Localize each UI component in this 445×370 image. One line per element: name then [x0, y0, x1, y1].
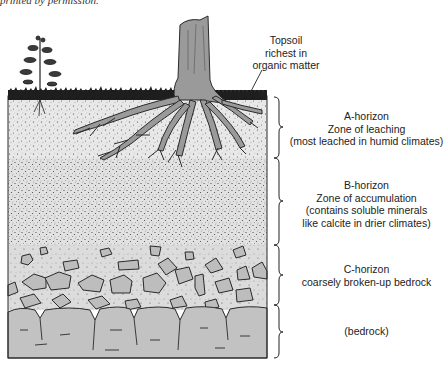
horizon-braces [274, 97, 283, 358]
b-horizon-note: (contains soluble minerals [288, 204, 445, 217]
b-horizon-layer [8, 158, 267, 248]
a-horizon-subtitle: Zone of leaching [288, 123, 445, 136]
bedrock-title: (bedrock) [288, 325, 445, 338]
c-horizon-subtitle: coarsely broken-up bedrock [288, 276, 445, 289]
a-horizon-title: A-horizon [288, 110, 445, 123]
topsoil-label-line: richest in [238, 47, 334, 60]
topsoil-label-line: organic matter [238, 59, 334, 72]
brace-c-horizon [274, 245, 283, 305]
topsoil-label-line: Topsoil [238, 34, 334, 47]
c-horizon-title: C-horizon [288, 263, 445, 276]
brace-a-horizon [274, 97, 283, 158]
bedrock-label: (bedrock) [288, 325, 445, 338]
a-horizon-label: A-horizon Zone of leaching (most leached… [288, 110, 445, 148]
bedrock-layer [8, 307, 267, 358]
b-horizon-note: like calcite in drier climates) [288, 217, 445, 230]
b-horizon-subtitle: Zone of accumulation [288, 192, 445, 205]
brace-bedrock [274, 305, 283, 358]
b-horizon-label: B-horizon Zone of accumulation (contains… [288, 179, 445, 229]
b-horizon-title: B-horizon [288, 179, 445, 192]
topsoil-label: Topsoil richest in organic matter [238, 34, 334, 72]
topsoil-grass [8, 86, 267, 100]
a-horizon-note: (most leached in humid climates) [288, 135, 445, 148]
c-horizon-label: C-horizon coarsely broken-up bedrock [288, 263, 445, 288]
brace-b-horizon [274, 158, 283, 245]
